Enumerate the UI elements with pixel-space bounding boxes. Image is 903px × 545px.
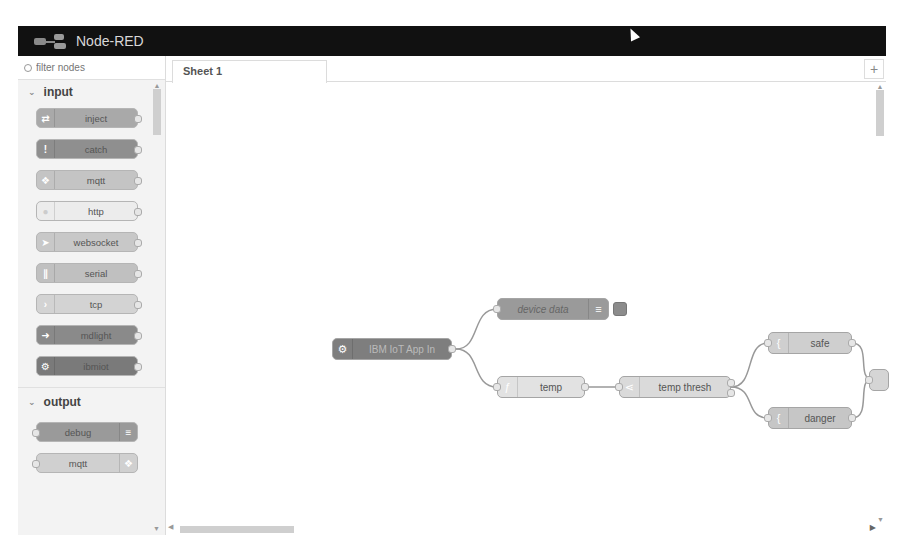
- flow-node-temp[interactable]: ƒ temp: [497, 376, 585, 398]
- node-label: temp: [518, 382, 584, 393]
- workspace-tabs: Sheet 1 +: [166, 56, 886, 82]
- output-port[interactable]: [134, 208, 142, 216]
- node-label: catch: [55, 144, 137, 155]
- input-port[interactable]: [32, 429, 40, 437]
- scroll-thumb[interactable]: [876, 90, 884, 136]
- output-port[interactable]: [134, 146, 142, 154]
- chevron-down-icon: ⌄: [28, 397, 36, 407]
- flow-canvas[interactable]: ⚙ IBM IoT App In device data ≡ ƒ temp ⋖ …: [166, 83, 874, 523]
- switch-icon: ⋖: [620, 377, 640, 397]
- debug-toggle-button[interactable]: [613, 302, 627, 316]
- palette-node-catch[interactable]: ! catch: [36, 139, 138, 159]
- canvas-horizontal-scrollbar[interactable]: ◀ ▶: [166, 523, 886, 535]
- output-port[interactable]: [134, 177, 142, 185]
- category-input-header[interactable]: ⌄ input: [18, 80, 165, 104]
- output-port[interactable]: [448, 345, 456, 353]
- node-label: mqtt: [37, 458, 119, 469]
- filter-nodes-input[interactable]: [36, 62, 146, 73]
- output-port[interactable]: [134, 239, 142, 247]
- arrow-icon: ⇄: [37, 109, 55, 127]
- output-port[interactable]: [134, 115, 142, 123]
- flow-node-temp-thresh[interactable]: ⋖ temp thresh: [619, 376, 731, 398]
- scroll-thumb[interactable]: [180, 526, 294, 533]
- palette-node-inject[interactable]: ⇄ inject: [36, 108, 138, 128]
- list-icon: ≡: [119, 423, 137, 441]
- palette-node-debug[interactable]: debug ≡: [36, 422, 138, 442]
- output-port[interactable]: [134, 270, 142, 278]
- gear-icon: ⚙: [37, 357, 55, 375]
- input-port[interactable]: [865, 376, 873, 384]
- category-output-header[interactable]: ⌄ output: [18, 390, 165, 414]
- palette-node-ibmiot[interactable]: ⚙ ibmiot: [36, 356, 138, 376]
- search-icon: [24, 64, 32, 72]
- add-tab-button[interactable]: +: [864, 59, 884, 79]
- input-node-list: ⇄ inject ! catch ❖ mqtt ● http ➤ web: [18, 104, 165, 376]
- template-icon: {: [769, 408, 789, 428]
- output-port[interactable]: [727, 389, 735, 397]
- scroll-left-icon[interactable]: ◀: [168, 523, 173, 531]
- node-label: debug: [37, 427, 119, 438]
- flow-node-danger[interactable]: { danger: [768, 407, 852, 429]
- scroll-right-icon[interactable]: ▶: [870, 523, 876, 532]
- node-red-app: Node-RED ⌄ input ⇄ inject ! catch ❖: [18, 26, 886, 535]
- node-label: IBM IoT App In: [353, 344, 451, 355]
- palette-node-mqtt[interactable]: ❖ mqtt: [36, 170, 138, 190]
- exclamation-icon: !: [37, 140, 55, 158]
- header-bar: Node-RED: [18, 26, 886, 56]
- palette-node-mdlight[interactable]: ➜ mdlight: [36, 325, 138, 345]
- output-port[interactable]: [134, 332, 142, 340]
- node-label: inject: [55, 113, 137, 124]
- node-label: serial: [55, 268, 137, 279]
- input-port[interactable]: [32, 460, 40, 468]
- node-label: danger: [789, 413, 851, 424]
- serial-icon: ∥: [37, 264, 55, 282]
- node-label: temp thresh: [640, 382, 730, 393]
- input-port[interactable]: [493, 383, 501, 391]
- bridge-icon: ❖: [119, 454, 137, 472]
- tab-sheet-1[interactable]: Sheet 1: [172, 60, 327, 83]
- input-port[interactable]: [615, 383, 623, 391]
- scroll-up-icon[interactable]: ▲: [152, 82, 162, 89]
- scroll-thumb[interactable]: [153, 89, 161, 135]
- palette-filter: [18, 56, 165, 80]
- output-node-list: debug ≡ mqtt ❖: [18, 414, 165, 473]
- output-port[interactable]: [727, 379, 735, 387]
- scroll-down-icon[interactable]: ▼: [877, 516, 884, 523]
- palette-node-http[interactable]: ● http: [36, 201, 138, 221]
- scroll-up-icon[interactable]: ▲: [874, 83, 886, 90]
- node-label: safe: [789, 338, 851, 349]
- input-port[interactable]: [764, 339, 772, 347]
- app-title: Node-RED: [76, 33, 144, 49]
- list-icon: ≡: [588, 299, 608, 319]
- palette-scrollbar[interactable]: ▲ ▼: [152, 82, 162, 532]
- light-icon: ➜: [37, 326, 55, 344]
- flow-node-ibm-iot-in[interactable]: ⚙ IBM IoT App In: [332, 338, 452, 360]
- globe-icon: ●: [37, 202, 55, 220]
- output-port[interactable]: [581, 383, 589, 391]
- chevron-down-icon: ⌄: [28, 87, 36, 97]
- node-label: http: [55, 206, 137, 217]
- output-port[interactable]: [848, 414, 856, 422]
- node-label: mqtt: [55, 175, 137, 186]
- flow-node-device-data[interactable]: device data ≡: [497, 298, 609, 320]
- node-label: websocket: [55, 237, 137, 248]
- canvas-vertical-scrollbar[interactable]: ▲ ▼: [874, 83, 886, 523]
- palette-node-tcp[interactable]: › tcp: [36, 294, 138, 314]
- bridge-icon: ›: [37, 295, 55, 313]
- output-port[interactable]: [848, 339, 856, 347]
- input-port[interactable]: [493, 305, 501, 313]
- input-port[interactable]: [764, 414, 772, 422]
- output-port[interactable]: [134, 301, 142, 309]
- arrow-icon: ➤: [37, 233, 55, 251]
- node-label: device data: [498, 304, 588, 315]
- palette-node-websocket[interactable]: ➤ websocket: [36, 232, 138, 252]
- category-label: output: [44, 395, 81, 409]
- scroll-down-icon[interactable]: ▼: [153, 525, 160, 532]
- flow-node-safe[interactable]: { safe: [768, 332, 852, 354]
- palette-node-mqtt-out[interactable]: mqtt ❖: [36, 453, 138, 473]
- output-port[interactable]: [134, 363, 142, 371]
- template-icon: {: [769, 333, 789, 353]
- node-label: ibmiot: [55, 361, 137, 372]
- palette-node-serial[interactable]: ∥ serial: [36, 263, 138, 283]
- node-red-logo-icon: [34, 32, 68, 50]
